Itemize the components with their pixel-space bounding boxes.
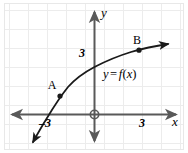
tick-label-x-three: 3 xyxy=(138,116,145,130)
tick-label-x-negative-three: –3 xyxy=(38,116,51,130)
svg-text:y=f(x): y=f(x) xyxy=(101,67,137,81)
curve-label-close-paren: ) xyxy=(132,67,136,81)
tick-label-y-three: 3 xyxy=(78,46,85,60)
x-axis-label: x xyxy=(171,114,178,129)
point-a xyxy=(57,93,62,98)
point-b xyxy=(136,48,141,53)
curve-equation-label: y=f(x) xyxy=(101,67,137,81)
point-b-label: B xyxy=(133,33,141,47)
curve-label-equals: = xyxy=(110,67,117,81)
point-a-label: A xyxy=(48,78,57,92)
graph-figure: A B 3 –3 3 x y y=f(x) xyxy=(0,0,188,153)
coordinate-plane: A B 3 –3 3 x y y=f(x) xyxy=(0,0,188,153)
y-axis-label: y xyxy=(99,5,107,20)
curve-label-y: y xyxy=(101,67,109,81)
